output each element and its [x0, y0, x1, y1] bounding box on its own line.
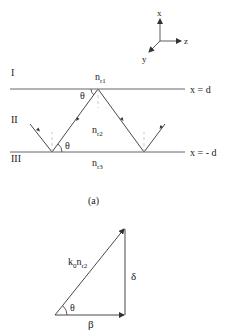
region-II-label: II	[11, 114, 18, 125]
index-n3-label: nr3	[92, 157, 103, 171]
waveguide-diagram: x z y I II III x = d x = - d nr1 nr2 nr3…	[0, 0, 229, 336]
y-axis-label: y	[142, 54, 147, 64]
arrowhead-incoming	[36, 128, 40, 132]
ray-segment-outgoing	[144, 124, 165, 152]
delta-label: δ	[131, 270, 136, 282]
triangle-angle-label: θ	[70, 302, 75, 313]
angle-arc-triangle	[63, 306, 67, 315]
ray-segment-up	[52, 89, 98, 152]
index-n1-label: nr1	[95, 71, 106, 85]
zigzag-ray	[30, 89, 165, 152]
y-axis-arrow	[149, 41, 160, 52]
beta-label: β	[88, 318, 94, 330]
x-axis-label: x	[157, 8, 162, 18]
angle-bottom-label: θ	[65, 140, 70, 151]
angle-top-label: θ	[80, 90, 85, 101]
hypotenuse-label: k0nr2	[68, 256, 88, 270]
arrowhead-up	[76, 117, 80, 121]
ray-segment-incoming	[30, 124, 52, 152]
wavevector-triangle	[55, 229, 125, 315]
index-n2-label: nr2	[92, 124, 103, 138]
bottom-boundary-label: x = - d	[190, 147, 216, 158]
z-axis-label: z	[184, 36, 188, 46]
region-I-label: I	[11, 67, 14, 78]
ray-segment-down	[98, 89, 144, 152]
top-boundary-label: x = d	[190, 84, 211, 95]
coordinate-axes: x z y	[142, 8, 188, 64]
angle-arc-top	[91, 89, 94, 95]
region-III-label: III	[11, 153, 21, 164]
angle-arc-bottom	[58, 144, 62, 152]
figure-a-caption: (a)	[88, 195, 99, 207]
hypotenuse-arrow	[55, 229, 124, 315]
